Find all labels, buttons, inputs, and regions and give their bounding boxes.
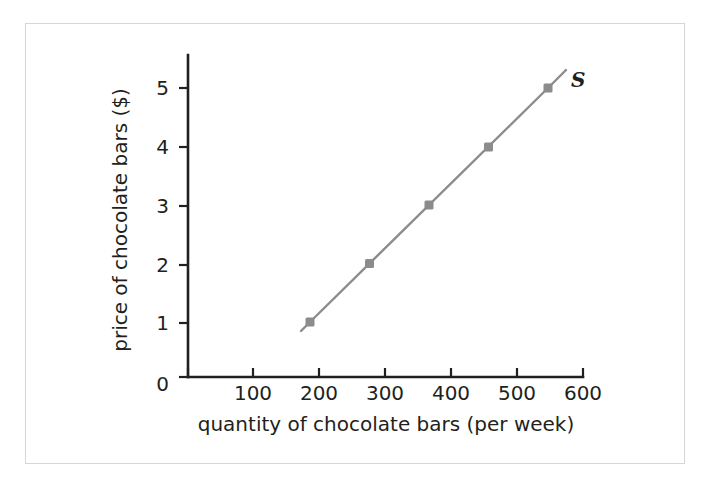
data-point-marker xyxy=(484,143,493,152)
data-point-marker xyxy=(365,259,374,268)
x-tick-label-600: 600 xyxy=(564,383,602,403)
y-tick-label-1: 1 xyxy=(145,313,169,333)
data-point-marker xyxy=(425,201,434,210)
y-axis-ticks xyxy=(179,88,188,377)
y-tick-label-3: 3 xyxy=(145,196,169,216)
supply-curve-label: S xyxy=(571,70,585,90)
y-axis-title: price of chocolate bars ($) xyxy=(110,88,130,352)
data-point-marker xyxy=(306,318,315,327)
x-tick-label-100: 100 xyxy=(234,383,272,403)
y-tick-label-4: 4 xyxy=(145,137,169,157)
x-tick-label-200: 200 xyxy=(300,383,338,403)
x-tick-label-300: 300 xyxy=(366,383,404,403)
y-tick-label-5: 5 xyxy=(145,78,169,98)
data-point-marker xyxy=(544,84,553,93)
x-axis-title: quantity of chocolate bars (per week) xyxy=(198,414,575,434)
chart-figure: 5 4 3 2 1 0 100 200 300 400 500 600 pric… xyxy=(0,0,711,490)
y-tick-label-2: 2 xyxy=(145,255,169,275)
x-tick-label-500: 500 xyxy=(498,383,536,403)
y-tick-label-0: 0 xyxy=(145,374,169,394)
x-tick-label-400: 400 xyxy=(432,383,470,403)
x-axis-ticks xyxy=(188,368,583,377)
